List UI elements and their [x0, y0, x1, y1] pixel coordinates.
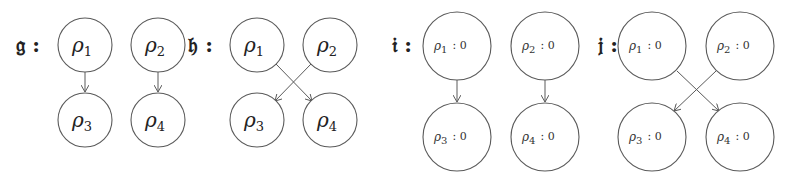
node-i-rho3: ρ3: 0: [423, 103, 491, 171]
diagram-label-g: 𝔤 :: [16, 32, 40, 57]
graph-figure: 𝔤 : ρ1 ρ2 ρ3 ρ4 𝔥 : ρ1 ρ2: [0, 0, 798, 182]
node-j-rho3: ρ3: 0: [618, 103, 686, 171]
edge-j-2-3: [674, 71, 716, 111]
edge-h-1-4: [276, 64, 312, 101]
node-g-rho4: ρ4: [131, 93, 185, 147]
node-g-rho2: ρ2: [131, 18, 185, 72]
node-j-rho1: ρ1: 0: [618, 12, 686, 80]
edge-j-1-4: [677, 71, 719, 111]
edge-h-2-3: [275, 64, 311, 101]
diagram-label-j: 𝔧 :: [598, 32, 618, 57]
node-h-rho1: ρ1: [230, 18, 284, 72]
node-h-rho3: ρ3: [230, 93, 284, 147]
diagram-h: 𝔥 : ρ1 ρ2 ρ3 ρ4: [187, 18, 357, 147]
node-i-rho2: ρ2: 0: [511, 12, 579, 80]
diagram-label-h: 𝔥 :: [187, 32, 213, 57]
node-i-rho1: ρ1: 0: [423, 12, 491, 80]
diagram-label-i: 𝔦 :: [392, 32, 412, 57]
node-j-rho2: ρ2: 0: [706, 12, 774, 80]
node-j-rho4: ρ4: 0: [706, 103, 774, 171]
node-i-rho4: ρ4: 0: [511, 103, 579, 171]
node-g-rho1: ρ1: [58, 18, 112, 72]
node-h-rho4: ρ4: [303, 93, 357, 147]
node-h-rho2: ρ2: [303, 18, 357, 72]
diagram-g: 𝔤 : ρ1 ρ2 ρ3 ρ4: [16, 18, 185, 147]
diagram-j: 𝔧 : ρ1: 0 ρ2: 0 ρ3: 0 ρ4: 0: [598, 12, 774, 171]
node-g-rho3: ρ3: [58, 93, 112, 147]
diagram-i: 𝔦 : ρ1: 0 ρ2: 0 ρ3: 0 ρ4: 0: [392, 12, 579, 171]
